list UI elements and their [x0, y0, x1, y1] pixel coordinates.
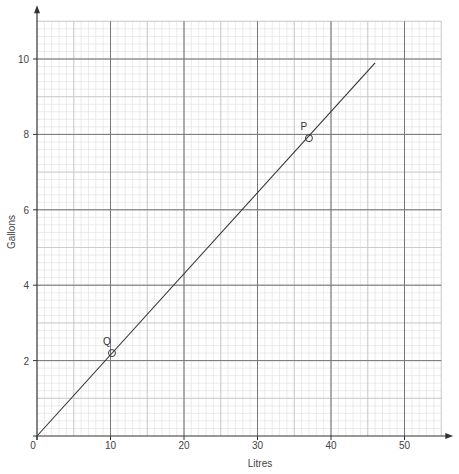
x-tick-label: 50 — [399, 440, 411, 451]
point-p-label: P — [301, 121, 308, 132]
x-tick-label: 20 — [178, 440, 190, 451]
major-grid — [37, 21, 441, 436]
y-tick-label: 6 — [23, 205, 29, 216]
x-tick-label: 40 — [325, 440, 337, 451]
litres-gallons-chart: 01020304050246810 PQ Litres Gallons — [0, 0, 459, 474]
y-tick-label: 4 — [23, 280, 29, 291]
point-q-label: Q — [103, 336, 111, 347]
y-tick-label: 8 — [23, 129, 29, 140]
minor-grid — [37, 21, 441, 436]
x-tick-label: 10 — [105, 440, 117, 451]
y-tick-label: 2 — [23, 356, 29, 367]
data-points: PQ — [103, 121, 312, 356]
y-axis-label: Gallons — [6, 215, 17, 249]
x-axis-label: Litres — [248, 458, 272, 469]
x-tick-label: 30 — [252, 440, 264, 451]
y-tick-label: 10 — [18, 54, 30, 65]
x-tick-label: 0 — [30, 440, 36, 451]
